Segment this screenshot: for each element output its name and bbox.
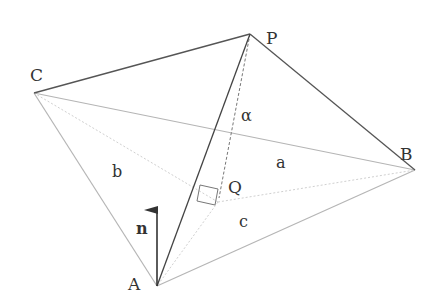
angle-label-alpha: α bbox=[241, 106, 252, 125]
dotted-QB bbox=[218, 170, 415, 202]
vertex-label-C: C bbox=[30, 65, 43, 85]
vertex-label-Q: Q bbox=[228, 177, 242, 197]
vertex-label-B: B bbox=[400, 144, 413, 164]
tetrahedron-diagram: C P B A Q a b c α n bbox=[0, 0, 433, 302]
edge-PA bbox=[157, 34, 250, 286]
edge-CA bbox=[34, 93, 157, 286]
edge-AB bbox=[157, 170, 415, 286]
dotted-QA bbox=[157, 202, 218, 286]
face-label-b: b bbox=[112, 162, 122, 181]
face-label-a: a bbox=[276, 153, 286, 172]
right-angle-marker bbox=[197, 185, 218, 205]
edge-PC bbox=[34, 34, 250, 93]
edge-PB bbox=[250, 34, 415, 170]
vertex-label-A: A bbox=[127, 274, 141, 294]
normal-label-n: n bbox=[136, 219, 148, 238]
dotted-QC bbox=[34, 93, 218, 202]
face-label-c: c bbox=[239, 212, 248, 231]
vertex-label-P: P bbox=[266, 28, 277, 48]
